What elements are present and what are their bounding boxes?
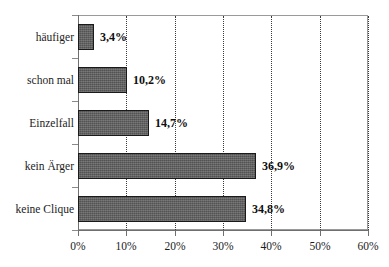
category-label: keine Clique — [0, 203, 74, 215]
value-label: 10,2% — [133, 72, 166, 87]
value-label: 36,9% — [262, 158, 295, 173]
x-tick-mark — [126, 231, 127, 236]
bar — [78, 110, 149, 136]
category-label: häufiger — [0, 31, 74, 43]
x-tick-label: 40% — [248, 240, 294, 252]
y-tick-mark — [72, 58, 78, 59]
y-tick-mark — [72, 144, 78, 145]
category-label: schon mal — [0, 74, 74, 86]
bar-chart: 0%10%20%30%40%50%60% häufigerschon malEi… — [0, 0, 389, 267]
x-tick-label: 20% — [152, 240, 198, 252]
y-tick-mark — [72, 230, 78, 231]
x-tick-mark — [78, 231, 79, 236]
bar — [78, 196, 246, 222]
value-label: 3,4% — [100, 29, 127, 44]
value-label: 14,7% — [155, 115, 188, 130]
gridline-40% — [271, 16, 272, 230]
category-label: kein Ärger — [0, 160, 74, 172]
x-tick-label: 50% — [297, 240, 343, 252]
value-label: 34,8% — [252, 201, 285, 216]
bar — [78, 24, 94, 50]
x-tick-mark — [320, 231, 321, 236]
category-label: Einzelfall — [0, 117, 74, 129]
y-tick-mark — [72, 101, 78, 102]
x-tick-mark — [368, 231, 369, 236]
x-tick-label: 0% — [55, 240, 101, 252]
x-tick-label: 10% — [103, 240, 149, 252]
x-tick-label: 60% — [345, 240, 389, 252]
x-tick-label: 30% — [200, 240, 246, 252]
x-tick-mark — [271, 231, 272, 236]
y-tick-mark — [72, 187, 78, 188]
x-tick-mark — [223, 231, 224, 236]
bar — [78, 67, 127, 93]
x-tick-mark — [175, 231, 176, 236]
gridline-60% — [368, 16, 369, 230]
bar — [78, 153, 256, 179]
gridline-50% — [320, 16, 321, 230]
y-tick-mark — [72, 15, 78, 16]
